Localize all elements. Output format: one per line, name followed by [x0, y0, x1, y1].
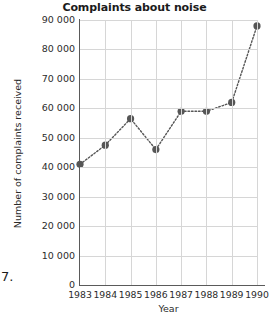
x-axis-line — [79, 285, 265, 286]
x-tick-label: 1984 — [93, 289, 117, 300]
gridline-horizontal — [80, 49, 257, 50]
gridline-horizontal — [80, 79, 257, 80]
gridline-horizontal — [80, 108, 257, 109]
gridline-vertical — [257, 20, 258, 285]
gridline-horizontal — [80, 167, 257, 168]
y-tick-label: 10 000 — [3, 250, 75, 261]
noise-complaints-chart: Complaints about noise 7. 010 00020 0003… — [0, 0, 269, 324]
gridline-vertical — [206, 20, 207, 285]
gridline-vertical — [181, 20, 182, 285]
gridline-horizontal — [80, 256, 257, 257]
y-tick-label: 90 000 — [3, 14, 75, 25]
x-axis-title: Year — [80, 303, 257, 314]
x-tick-label: 1987 — [169, 289, 193, 300]
gridline-horizontal — [80, 197, 257, 198]
gridline-vertical — [105, 20, 106, 285]
x-tick-label: 1986 — [144, 289, 168, 300]
data-series — [80, 20, 257, 285]
gridline-vertical — [232, 20, 233, 285]
gridline-vertical — [156, 20, 157, 285]
plot-area — [80, 20, 257, 285]
y-tick-label: 80 000 — [3, 43, 75, 54]
x-tick-label: 1989 — [220, 289, 244, 300]
x-tick-label: 1985 — [119, 289, 143, 300]
y-axis-title: Number of complaints received — [12, 69, 23, 239]
x-tick-label: 1988 — [195, 289, 219, 300]
x-tick-label: 1990 — [245, 289, 269, 300]
x-tick-label: 1983 — [68, 289, 92, 300]
gridline-horizontal — [80, 226, 257, 227]
x-axis-tick-labels: 19831984198519861987198819891990 — [0, 289, 269, 303]
gridline-vertical — [131, 20, 132, 285]
gridline-horizontal — [80, 20, 257, 21]
gridline-horizontal — [80, 138, 257, 139]
